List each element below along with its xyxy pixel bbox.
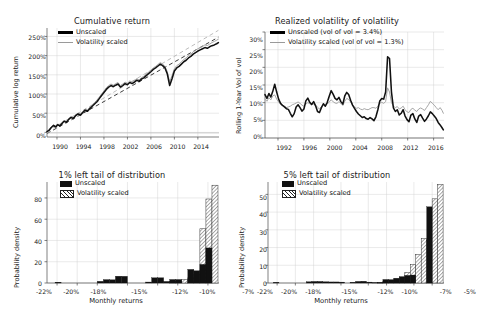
ytick-2: 20: [245, 246, 267, 253]
ytick-0: 0%: [20, 132, 46, 139]
ytick-2: 40: [20, 238, 42, 245]
xtick-0: 1990: [47, 143, 73, 150]
legend-vol-of-vol: Unscaled (vol of vol = 3.4%) Volatility …: [270, 28, 404, 48]
xtick-1: -20%: [276, 288, 302, 295]
legend-item-volatility-scaled[interactable]: Volatility scaled: [60, 189, 129, 198]
legend-label-unscaled: Unscaled: [75, 179, 105, 188]
panel-tail-5pct: 5% left tail of distribution Probability…: [225, 166, 449, 333]
xtick-1: 1996: [296, 144, 322, 151]
ytick-1: 20: [20, 259, 42, 266]
xtick-7: -5%: [457, 288, 481, 295]
hatched-patch-icon: [282, 190, 296, 198]
ytick-1: 50%: [20, 112, 46, 119]
xtick-3: 2002: [118, 143, 144, 150]
legend-label-volatility-scaled: Volatility scaled: [299, 189, 351, 198]
xtick-4: 2008: [372, 144, 398, 151]
ytick-0: 0%: [237, 133, 263, 140]
xtick-5: -10%: [397, 288, 423, 295]
legend-item-volatility-scaled[interactable]: Volatility scaled (vol of vol = 1.3%): [270, 38, 404, 47]
xtick-6: 2014: [188, 143, 214, 150]
legend-cumulative-return: Unscaled Volatility scaled: [58, 28, 128, 48]
legend-label-unscaled: Unscaled: [297, 179, 327, 188]
legend-label-volatility-scaled: Volatility scaled (vol of vol = 1.3%): [288, 38, 404, 47]
legend-label-volatility-scaled: Volatility scaled: [76, 38, 128, 47]
ytick-3: 150%: [20, 73, 46, 80]
ytick-5: 25%: [237, 52, 263, 59]
legend-label-unscaled: Unscaled (vol of vol = 3.4%): [288, 28, 382, 37]
xtick-4: -12%: [167, 288, 193, 295]
ytick-4: 200%: [20, 53, 46, 60]
legend-item-unscaled[interactable]: Unscaled (vol of vol = 3.4%): [270, 28, 404, 37]
panel-tail-1pct: 1% left tail of distribution Probability…: [0, 166, 224, 333]
legend-tail-1pct: Unscaled Volatility scaled: [60, 179, 129, 199]
xtick-3: -15%: [336, 288, 362, 295]
legend-item-volatility-scaled[interactable]: Volatility scaled: [58, 38, 128, 47]
line-swatch-icon: [58, 42, 73, 43]
legend-item-unscaled[interactable]: Unscaled: [58, 28, 128, 37]
xtick-0: -22%: [31, 288, 57, 295]
xlabel-tail-5pct: Monthly returns: [241, 297, 441, 305]
xtick-2: 1998: [94, 143, 120, 150]
line-swatch-icon: [58, 31, 73, 33]
xtick-5: -10%: [194, 288, 220, 295]
ytick-2: 100%: [20, 92, 46, 99]
xtick-6: 2016: [423, 144, 449, 151]
legend-item-unscaled[interactable]: Unscaled: [282, 179, 351, 188]
ytick-3: 15%: [237, 84, 263, 91]
xtick-2: -18%: [300, 288, 326, 295]
solid-patch-icon: [282, 181, 294, 187]
ytick-3: 60: [20, 217, 42, 224]
ytick-4: 20%: [237, 68, 263, 75]
hatched-patch-icon: [60, 190, 74, 198]
legend-label-volatility-scaled: Volatility scaled: [77, 189, 129, 198]
solid-patch-icon: [60, 181, 72, 187]
xtick-3: -15%: [126, 288, 152, 295]
legend-tail-5pct: Unscaled Volatility scaled: [282, 179, 351, 199]
xtick-0: 1992: [271, 144, 297, 151]
ytick-2: 10%: [237, 100, 263, 107]
ytick-6: 30%: [237, 36, 263, 43]
ylabel-cumulative-return: Cumulative log return: [12, 56, 20, 128]
xtick-1: 1994: [71, 143, 97, 150]
xtick-4: 2006: [141, 143, 167, 150]
panel-title-vol-of-vol: Realized volatility of volatility: [225, 16, 449, 26]
xtick-4: -12%: [373, 288, 399, 295]
legend-item-unscaled[interactable]: Unscaled: [60, 179, 129, 188]
panel-cumulative-return: Cumulative return Cumulative log return …: [0, 6, 224, 166]
ytick-5: 250%: [20, 34, 46, 41]
xtick-3: 2004: [347, 144, 373, 151]
line-swatch-icon: [270, 42, 285, 43]
ytick-1: 5%: [237, 116, 263, 123]
ytick-5: 50: [245, 194, 267, 201]
xtick-1: -20%: [58, 288, 84, 295]
legend-item-volatility-scaled[interactable]: Volatility scaled: [282, 189, 351, 198]
ylabel-tail-1pct: Probability density: [13, 227, 21, 288]
ytick-3: 30: [245, 229, 267, 236]
xtick-2: -18%: [85, 288, 111, 295]
ytick-4: 80: [20, 196, 42, 203]
xtick-0: -22%: [252, 288, 278, 295]
panel-title-cumulative-return: Cumulative return: [0, 16, 224, 26]
ytick-4: 40: [245, 211, 267, 218]
ytick-0: 0: [20, 280, 42, 287]
panel-vol-of-vol: Realized volatility of volatility Rollin…: [225, 6, 449, 166]
xlabel-tail-1pct: Monthly returns: [16, 297, 216, 305]
ylabel-tail-5pct: Probability density: [238, 227, 246, 288]
ytick-0: 0: [245, 280, 267, 287]
ytick-1: 10: [245, 263, 267, 270]
xtick-2: 2000: [322, 144, 348, 151]
line-swatch-icon: [270, 31, 285, 33]
xtick-5: 2012: [398, 144, 424, 151]
xtick-6: -7%: [433, 288, 459, 295]
legend-label-unscaled: Unscaled: [76, 28, 106, 37]
xtick-5: 2010: [165, 143, 191, 150]
